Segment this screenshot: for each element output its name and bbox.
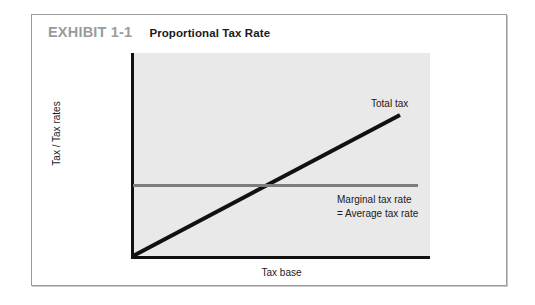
exhibit-card: EXHIBIT 1-1 Proportional Tax Rate Tax / …	[31, 14, 507, 286]
marginal-rate-line	[133, 184, 418, 187]
exhibit-root: EXHIBIT 1-1 Proportional Tax Rate Tax / …	[0, 0, 535, 305]
chart-figure: Tax / Tax rates Tax base Total tax Margi…	[32, 15, 508, 287]
x-axis-label: Tax base	[133, 267, 430, 278]
y-axis-label: Tax / Tax rates	[51, 74, 62, 194]
total-tax-line	[133, 53, 430, 257]
marginal-rate-label-line2: = Average tax rate	[337, 207, 418, 221]
marginal-rate-label: Marginal tax rate = Average tax rate	[337, 193, 418, 221]
marginal-rate-label-line1: Marginal tax rate	[337, 193, 418, 207]
total-tax-label: Total tax	[371, 98, 408, 109]
